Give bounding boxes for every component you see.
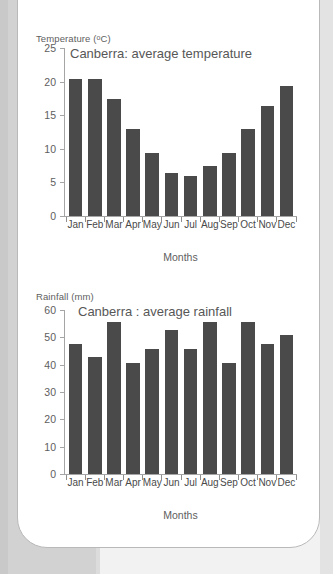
x-tick-mark: [181, 217, 182, 222]
bar-nov: [261, 106, 275, 216]
y-tick-label: 25: [44, 42, 56, 54]
bar-sep: [222, 363, 236, 474]
y-axis-unit-label-rainfall: Rainfall (mm): [36, 291, 94, 302]
x-tick-label-jun: Jun: [163, 477, 179, 488]
x-tick-slot: Jan: [66, 217, 85, 235]
x-tick-label-mar: Mar: [105, 477, 122, 488]
y-tick-label: 0: [50, 468, 56, 480]
bar-oct: [241, 129, 255, 216]
x-tick-label-feb: Feb: [86, 219, 103, 230]
bar-nov: [261, 344, 275, 474]
x-tick-label-sep: Sep: [220, 477, 238, 488]
x-axis-title-rainfall: Months: [64, 509, 297, 521]
x-tick-label-oct: Oct: [240, 219, 256, 230]
y-tick-label: 5: [50, 176, 56, 188]
bar-feb: [88, 357, 102, 474]
bar-slot: [219, 311, 238, 474]
x-tick-label-oct: Oct: [240, 477, 256, 488]
x-tick-label-dec: Dec: [278, 477, 296, 488]
bar-may: [145, 349, 159, 474]
bar-apr: [126, 363, 140, 474]
bar-slot: [124, 49, 143, 216]
bar-slot: [277, 311, 296, 474]
x-tick-label-may: May: [143, 219, 162, 230]
chart-rainfall: Rainfall (mm) Canberra : average rainfal…: [18, 291, 321, 541]
bar-slot: [200, 49, 219, 216]
bar-jun: [165, 173, 179, 216]
x-tick-label-aug: Aug: [201, 219, 219, 230]
bar-jan: [69, 344, 83, 474]
bar-slot: [181, 49, 200, 216]
x-tick-slot: Nov: [258, 217, 277, 235]
x-tick-slot: Sep: [219, 475, 238, 493]
x-axis-ticks-rainfall: JanFebMarAprMayJunJulAugSepOctNovDec: [65, 475, 297, 493]
x-tick-label-apr: Apr: [125, 219, 141, 230]
x-tick-mark: [181, 475, 182, 480]
bar-apr: [126, 129, 140, 216]
bar-jan: [69, 79, 83, 216]
bar-slot: [104, 49, 123, 216]
x-tick-label-feb: Feb: [86, 477, 103, 488]
x-tick-mark: [66, 217, 67, 222]
bar-dec: [280, 86, 294, 216]
x-tick-slot: Mar: [104, 217, 123, 235]
y-tick-label: 15: [44, 109, 56, 121]
bar-aug: [203, 166, 217, 216]
bar-slot: [239, 49, 258, 216]
bar-series-temperature: [65, 49, 297, 216]
x-tick-mark-end: [296, 217, 297, 222]
x-tick-label-apr: Apr: [125, 477, 141, 488]
x-tick-label-mar: Mar: [105, 219, 122, 230]
bar-slot: [66, 311, 85, 474]
x-tick-slot: Jul: [181, 217, 200, 235]
bar-slot: [200, 311, 219, 474]
x-tick-slot: Feb: [85, 475, 104, 493]
x-tick-slot: Feb: [85, 217, 104, 235]
y-tick-label: 30: [44, 386, 56, 398]
x-tick-mark: [66, 475, 67, 480]
x-tick-mark: [238, 475, 239, 480]
x-tick-mark: [161, 217, 162, 222]
bar-jul: [184, 176, 198, 216]
card-inner: Temperature (oC) Canberra: average tempe…: [18, 0, 319, 547]
y-axis-unit-tail-temperature: C): [100, 33, 110, 44]
bar-slot: [181, 311, 200, 474]
bar-slot: [162, 49, 181, 216]
chart-temperature: Temperature (oC) Canberra: average tempe…: [18, 33, 321, 283]
x-tick-slot: Jul: [181, 475, 200, 493]
bar-slot: [258, 311, 277, 474]
x-axis-title-temperature: Months: [64, 251, 297, 263]
bar-mar: [107, 99, 121, 216]
x-tick-slot: Dec: [277, 475, 296, 493]
x-tick-mark: [123, 217, 124, 222]
x-tick-label-jul: Jul: [184, 477, 197, 488]
x-tick-slot: Sep: [219, 217, 238, 235]
bar-sep: [222, 153, 236, 216]
bar-slot: [258, 49, 277, 216]
x-tick-slot: Apr: [124, 217, 143, 235]
bar-may: [145, 153, 159, 216]
x-tick-mark: [123, 475, 124, 480]
bar-slot: [219, 49, 238, 216]
content-card: Temperature (oC) Canberra: average tempe…: [17, 0, 320, 548]
bar-slot: [124, 311, 143, 474]
bar-feb: [88, 79, 102, 216]
x-tick-mark: [238, 217, 239, 222]
bar-oct: [241, 322, 255, 474]
bar-jun: [165, 330, 179, 474]
x-tick-label-may: May: [143, 477, 162, 488]
x-tick-label-sep: Sep: [220, 219, 238, 230]
x-tick-slot: Nov: [258, 475, 277, 493]
x-tick-mark: [161, 475, 162, 480]
bar-slot: [277, 49, 296, 216]
bar-slot: [104, 311, 123, 474]
y-tick-label: 60: [44, 304, 56, 316]
x-tick-label-nov: Nov: [258, 219, 276, 230]
bar-aug: [203, 322, 217, 474]
x-tick-label-nov: Nov: [258, 477, 276, 488]
bar-slot: [85, 49, 104, 216]
x-tick-label-dec: Dec: [278, 219, 296, 230]
bar-mar: [107, 322, 121, 474]
y-tick-label: 40: [44, 359, 56, 371]
x-axis-ticks-temperature: JanFebMarAprMayJunJulAugSepOctNovDec: [65, 217, 297, 235]
